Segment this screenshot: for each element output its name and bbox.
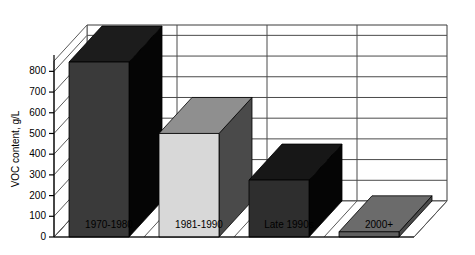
y-tick-label-800: 800	[29, 65, 46, 76]
y-axis-title: VOC content, g/L	[10, 110, 21, 187]
y-tick-label-200: 200	[29, 190, 46, 201]
bar-front-face-3	[339, 232, 399, 237]
y-tick-label-100: 100	[29, 210, 46, 221]
y-tick-label-300: 300	[29, 169, 46, 180]
y-tick-label-600: 600	[29, 107, 46, 118]
chart-container: 0100200300400500600700800VOC content, g/…	[0, 0, 475, 255]
bar-front-face-0	[69, 62, 129, 237]
bar-side-face-0	[129, 26, 162, 237]
y-tick-label-400: 400	[29, 148, 46, 159]
voc-bar-chart: 0100200300400500600700800VOC content, g/…	[0, 0, 475, 255]
category-label-3: 2000+	[365, 219, 393, 230]
bar-0[interactable]	[69, 26, 162, 237]
bar-1[interactable]	[159, 97, 252, 237]
category-label-0: 1970-1980	[85, 219, 133, 230]
category-label-1: 1981-1990	[175, 219, 223, 230]
category-label-2: Late 1990s	[264, 219, 314, 230]
y-tick-label-0: 0	[40, 231, 46, 242]
y-tick-label-500: 500	[29, 128, 46, 139]
y-tick-label-700: 700	[29, 86, 46, 97]
